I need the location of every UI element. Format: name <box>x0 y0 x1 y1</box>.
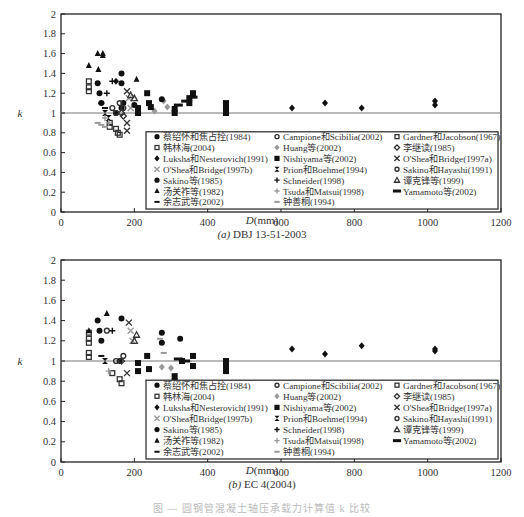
marker-circle <box>154 134 159 139</box>
marker-square <box>223 358 229 364</box>
marker-dash <box>98 124 104 126</box>
marker-plus <box>109 328 115 334</box>
marker-square <box>144 90 150 96</box>
legend-item-label: 谭克锋等(1999) <box>403 175 464 186</box>
legend-item-label: Sakino等(1985) <box>163 175 222 186</box>
panel-caption-a: (a) DBJ 13-51-2003 <box>0 228 524 240</box>
y-tick-label: 0.6 <box>43 396 56 407</box>
marker-dash <box>274 201 279 203</box>
marker-triangle <box>134 76 140 82</box>
marker-x <box>124 370 130 376</box>
legend-item-label: 李继读(1985) <box>403 391 455 402</box>
legend-item-label: Sakino和Hayashi(1991) <box>403 414 492 424</box>
data-points <box>86 310 438 386</box>
marker-circle <box>159 330 165 336</box>
marker-dash <box>98 355 104 357</box>
y-tick-label: 2 <box>51 9 56 20</box>
marker-x <box>128 328 134 334</box>
legend-item-label: Huang等(2002) <box>283 142 341 153</box>
marker-dash <box>274 451 279 453</box>
marker-dash <box>102 126 108 128</box>
y-tick-label: 0.8 <box>43 127 56 138</box>
marker-diamond <box>168 365 174 372</box>
figure-caption: 图 — 圆钢管混凝土轴压承载力计算值 k 比较 <box>0 500 524 515</box>
legend-item-label: Campione和Scibilia(2002) <box>283 132 382 142</box>
marker-x <box>124 88 130 94</box>
marker-circle <box>131 102 137 108</box>
marker-circle <box>154 178 159 183</box>
marker-circle <box>154 427 159 432</box>
legend-item-label: Schneider(1998) <box>283 425 344 435</box>
chart-panel-b: 00.20.40.60.811.21.41.61.820200400600800… <box>0 248 524 498</box>
marker-dash <box>95 122 101 124</box>
marker-circle-open <box>104 328 109 333</box>
marker-square <box>144 353 150 359</box>
marker-square <box>190 90 196 96</box>
legend: 蔡绍怀和焦占拴(1984)韩林海(2004)Luksha和Nesterovich… <box>146 380 500 459</box>
marker-diamond <box>432 98 438 105</box>
legend-item-label: Huang等(2002) <box>283 391 341 402</box>
marker-square <box>190 353 196 359</box>
marker-circle <box>98 338 104 344</box>
marker-dash-bold <box>174 104 183 107</box>
marker-dash-bold <box>393 190 401 193</box>
marker-square <box>146 366 152 372</box>
marker-circle <box>159 340 165 346</box>
y-tick-label: 1 <box>51 108 56 119</box>
y-axis-label: k <box>18 107 24 119</box>
marker-x <box>124 128 130 134</box>
y-tick-label: 1.6 <box>43 48 56 59</box>
legend-item-label: Yamamoto等(2002) <box>403 186 476 197</box>
y-tick-label: 0.4 <box>43 416 57 427</box>
marker-triangle <box>95 50 101 56</box>
marker-plus <box>109 78 115 84</box>
marker-circle <box>119 70 125 76</box>
legend-item-label: 韩林海(2004) <box>163 142 215 153</box>
legend-item-label: 蔡绍怀和焦占拴(1984) <box>163 131 251 142</box>
y-tick-label: 1.4 <box>43 315 57 326</box>
marker-circle-open <box>110 106 115 111</box>
y-tick-label: 0.2 <box>43 187 56 198</box>
y-tick-label: 0.6 <box>43 147 56 158</box>
marker-circle <box>119 316 125 322</box>
marker-triangle-open <box>134 332 140 338</box>
legend-item-label: Tsuda和Matsui(1998) <box>283 187 364 197</box>
marker-square <box>148 104 154 110</box>
marker-dash-bold <box>189 96 198 99</box>
legend-item-label: O'Shea和Bridge(1997a) <box>403 154 492 164</box>
marker-square-open <box>86 79 91 84</box>
marker-diamond <box>159 364 165 371</box>
legend-item-label: Schneider(1998) <box>283 176 344 186</box>
legend-item-label: 韩林海(2004) <box>163 391 215 402</box>
x-axis-label-a: D(mm) <box>0 214 524 226</box>
marker-diamond <box>322 100 328 107</box>
legend-item-label: O'Shea和Bridge(1997b) <box>163 414 252 424</box>
legend-item-label: Luksha和Nesterovich(1991) <box>163 403 268 413</box>
marker-square <box>190 363 196 369</box>
marker-circle <box>177 336 183 342</box>
legend-item-label: 钟善桐(1994) <box>283 196 335 207</box>
marker-diamond <box>359 342 365 349</box>
y-tick-label: 0.8 <box>43 376 56 387</box>
legend-item-label: 汤关祚等(1982) <box>163 186 224 197</box>
legend-item-label: Tsuda和Matsui(1998) <box>283 436 364 446</box>
y-tick-label: 2 <box>51 255 56 266</box>
marker-dash-bold <box>181 360 190 363</box>
legend-item-label: 余志武等(2002) <box>163 196 224 207</box>
legend-item-label: Yamamoto等(2002) <box>403 435 476 446</box>
scatter-plot-b: 00.20.40.60.811.21.41.61.820200400600800… <box>0 248 524 480</box>
marker-plus <box>106 368 112 374</box>
legend-item-label: Luksha和Nesterovich(1991) <box>163 154 268 164</box>
y-tick-label: 1.2 <box>43 335 56 346</box>
marker-square <box>135 368 141 374</box>
marker-diamond <box>289 105 295 112</box>
y-tick-label: 0.2 <box>43 436 56 447</box>
scatter-plot-a: 00.20.40.60.811.21.41.61.820200400600800… <box>0 0 524 232</box>
marker-square <box>274 405 279 410</box>
marker-triangle <box>95 66 101 72</box>
legend-item-label: 李继读(1985) <box>403 142 455 153</box>
marker-diamond <box>322 350 328 357</box>
data-points <box>86 50 438 137</box>
y-tick-label: 1.4 <box>43 68 57 79</box>
legend-item-label: Gardner和Jacobson(1967) <box>403 381 500 391</box>
